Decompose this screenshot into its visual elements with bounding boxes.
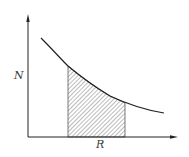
- x-axis-label: R: [96, 139, 104, 150]
- y-axis-arrow-icon: [26, 14, 29, 22]
- diagram-canvas: [0, 0, 189, 157]
- x-axis-arrow-icon: [170, 135, 178, 138]
- shaded-area: [68, 66, 125, 137]
- y-axis-label: N: [14, 70, 24, 81]
